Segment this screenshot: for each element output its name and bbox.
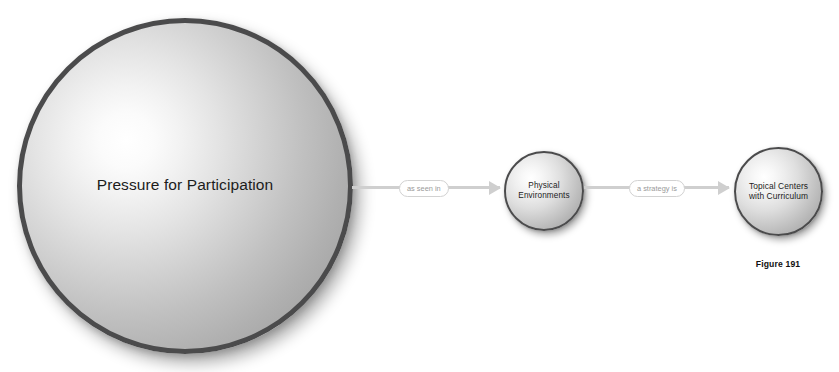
node-topical-centers-with-curriculum[interactable]: Topical Centers with Curriculum	[734, 147, 823, 236]
arrowhead-icon-a-strategy-is	[718, 181, 730, 195]
node-label-physical-environments: Physical Environments	[518, 181, 569, 200]
node-physical-environments[interactable]: Physical Environments	[504, 151, 584, 231]
figure-caption: Figure 191	[730, 259, 826, 269]
node-label-pressure-for-participation: Pressure for Participation	[97, 176, 274, 194]
concept-map-diagram: as seen in a strategy is Pressure for Pa…	[0, 0, 839, 372]
node-label-topical-centers-with-curriculum: Topical Centers with Curriculum	[749, 182, 808, 202]
arrowhead-icon-as-seen-in	[489, 181, 501, 195]
connector-label-as-seen-in: as seen in	[399, 180, 449, 197]
node-pressure-for-participation[interactable]: Pressure for Participation	[17, 18, 353, 354]
connector-label-a-strategy-is: a strategy is	[629, 180, 685, 197]
